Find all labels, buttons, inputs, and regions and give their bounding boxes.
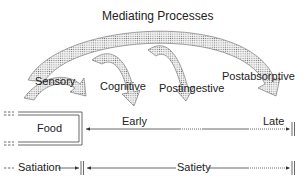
early-label: Early [122,115,147,127]
satiation-label: Satiation [18,161,61,173]
satiety-label: Satiety [177,161,211,173]
diagram-title: Mediating Processes [102,9,213,23]
diagram-canvas [0,0,305,181]
cognitive-label: Cognitive [100,80,146,92]
late-label: Late [263,115,284,127]
postabsorptive-label: Postabsorptive [222,70,295,82]
postingestive-label: Postingestive [159,82,224,94]
sensory-label: Sensory [35,75,75,87]
food-label: Food [37,122,62,134]
